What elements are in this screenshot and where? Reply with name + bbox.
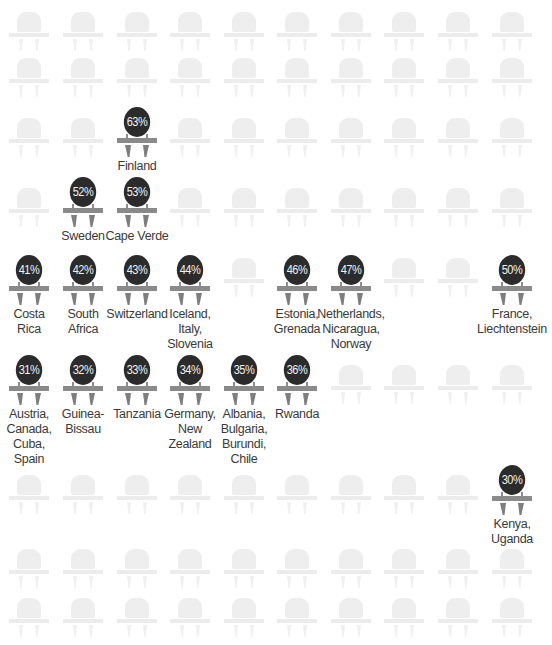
chair-icon — [166, 118, 214, 158]
chair-back — [71, 549, 95, 569]
chair-seat — [224, 619, 264, 623]
chair-leg-icon — [178, 293, 184, 305]
chair-leg — [518, 145, 522, 157]
chair-seat — [438, 33, 478, 37]
chair-leg — [287, 85, 291, 97]
chair-leg — [341, 145, 345, 157]
chair-seat — [438, 139, 478, 143]
chair-leg — [464, 285, 468, 297]
chair-leg — [73, 576, 77, 588]
chair-leg-icon — [518, 293, 524, 305]
country-label-line: Spain — [0, 452, 75, 467]
chair-icon — [59, 475, 107, 515]
chair-seat — [63, 619, 103, 623]
chair-leg — [502, 215, 506, 227]
chair-leg — [180, 625, 184, 637]
chair-seat-icon — [224, 386, 264, 391]
chair-back — [446, 549, 470, 569]
chair-back — [392, 549, 416, 569]
chair-icon — [166, 188, 214, 228]
chair-back — [446, 258, 470, 278]
chair-back — [446, 58, 470, 78]
chair-leg — [234, 39, 238, 51]
chair-back — [285, 188, 309, 208]
chair-back — [392, 598, 416, 618]
chair-seat — [492, 570, 532, 574]
chair-back — [339, 118, 363, 138]
chair-icon — [220, 58, 268, 98]
chair-leg-icon — [89, 215, 95, 227]
chair-back — [17, 598, 41, 618]
chair-seat-icon — [492, 496, 532, 501]
chair-leg-icon — [125, 393, 131, 405]
chair-leg-icon — [17, 293, 23, 305]
chair-leg — [394, 145, 398, 157]
chair-back — [392, 258, 416, 278]
chair-seat — [63, 79, 103, 83]
chair-back — [392, 12, 416, 32]
chair-leg — [127, 502, 131, 514]
chair-icon — [166, 549, 214, 589]
chair-back — [339, 475, 363, 495]
chair-icon — [5, 475, 53, 515]
chair-seat — [492, 209, 532, 213]
chair-seat-icon — [63, 286, 103, 291]
chair-leg — [127, 39, 131, 51]
chair-seat — [277, 79, 317, 83]
chair-leg-icon — [303, 393, 309, 405]
chair-leg — [196, 39, 200, 51]
chair-leg — [89, 145, 93, 157]
chair-icon — [327, 365, 375, 405]
chair-seat — [9, 619, 49, 623]
chair-icon — [434, 188, 482, 228]
chair-seat — [63, 496, 103, 500]
chair-seat — [384, 139, 424, 143]
chair-leg — [35, 39, 39, 51]
country-label-line: Norway — [305, 337, 397, 352]
country-label-line: Finland — [91, 159, 183, 174]
chair-back — [71, 12, 95, 32]
chair-seat — [277, 570, 317, 574]
chair-leg — [180, 576, 184, 588]
chair-leg — [180, 145, 184, 157]
chair-icon — [434, 58, 482, 98]
chair-seat — [384, 619, 424, 623]
chair-seat — [224, 496, 264, 500]
chair-seat — [331, 139, 371, 143]
chair-seat — [277, 209, 317, 213]
chair-icon — [327, 598, 375, 638]
chair-leg — [357, 502, 361, 514]
chair-back — [446, 598, 470, 618]
chair-leg — [250, 39, 254, 51]
chair-leg — [502, 392, 506, 404]
chair-leg-icon — [143, 215, 149, 227]
chair-leg — [303, 39, 307, 51]
chair-seat — [438, 496, 478, 500]
chair-leg — [448, 502, 452, 514]
percentage-badge: 53% — [124, 177, 150, 207]
chair-leg — [518, 39, 522, 51]
chair-icon — [380, 598, 428, 638]
chair-leg — [250, 625, 254, 637]
chair-back — [125, 475, 149, 495]
chair-leg — [448, 285, 452, 297]
chair-icon — [166, 598, 214, 638]
chair-leg-icon — [125, 293, 131, 305]
chair-seat — [117, 570, 157, 574]
chair-icon — [434, 258, 482, 298]
chair-leg — [341, 85, 345, 97]
chair-seat — [170, 496, 210, 500]
chair-back — [285, 549, 309, 569]
chair-icon — [113, 549, 161, 589]
chair-back — [178, 188, 202, 208]
chair-seat — [331, 79, 371, 83]
chair-icon — [220, 549, 268, 589]
chair-leg — [73, 625, 77, 637]
chair-back — [285, 118, 309, 138]
chair-icon — [166, 12, 214, 52]
chair-seat — [384, 386, 424, 390]
chair-seat — [224, 139, 264, 143]
chair-leg — [502, 576, 506, 588]
chair-icon — [5, 58, 53, 98]
chair-leg — [196, 576, 200, 588]
